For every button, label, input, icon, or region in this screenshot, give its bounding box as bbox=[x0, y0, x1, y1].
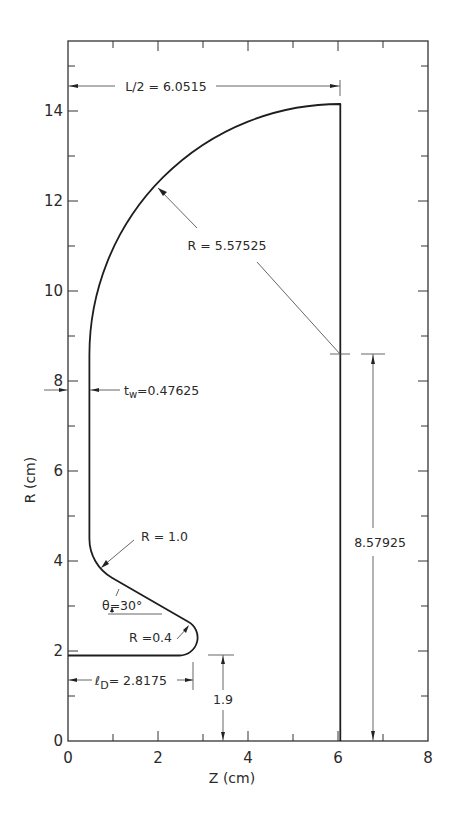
cavity-profile-curve bbox=[68, 104, 340, 741]
arc-radius-dimension: R = 5.57525 bbox=[158, 188, 350, 354]
fillet-radius-label: R = 1.0 bbox=[141, 529, 188, 544]
y-tick-label: 10 bbox=[44, 282, 63, 300]
duct-radius-label: 1.9 bbox=[213, 692, 233, 707]
wall-thickness-dimension: tw=0.47625 bbox=[44, 383, 199, 400]
x-tick-labels: 0 2 4 6 8 bbox=[63, 749, 433, 767]
angle-label: θ=30° bbox=[102, 598, 142, 613]
y-tick-label: 12 bbox=[44, 192, 63, 210]
y-tick-label: 0 bbox=[53, 732, 63, 750]
duct-radius-dimension: 1.9 bbox=[208, 655, 234, 741]
plot-frame bbox=[68, 41, 428, 741]
x-tick-label: 0 bbox=[63, 749, 73, 767]
y-tick-label: 6 bbox=[53, 462, 63, 480]
y-tick-label: 4 bbox=[53, 552, 63, 570]
y-tick-label: 2 bbox=[53, 642, 63, 660]
y-tick-labels: 0 2 4 6 8 10 12 14 bbox=[44, 102, 63, 750]
duct-length-dimension: ℓD= 2.8175 bbox=[68, 662, 193, 692]
y-tick-label: 8 bbox=[53, 372, 63, 390]
x-tick-label: 4 bbox=[243, 749, 253, 767]
x-tick-label: 6 bbox=[333, 749, 343, 767]
y-tick-label: 14 bbox=[44, 102, 63, 120]
cavity-profile-diagram: 0 2 4 6 8 0 2 4 6 8 10 12 14 Z (cm) R (c… bbox=[0, 0, 452, 825]
fillet-radius-dimension: R = 1.0 bbox=[101, 529, 188, 568]
center-height-label: 8.57925 bbox=[354, 535, 406, 550]
half-length-dimension: L/2 = 6.0515 bbox=[68, 79, 340, 96]
duct-length-label: ℓD= 2.8175 bbox=[94, 673, 167, 692]
x-tick-label: 8 bbox=[423, 749, 433, 767]
wall-thickness-label: tw=0.47625 bbox=[124, 383, 199, 400]
arc-radius-label: R = 5.57525 bbox=[188, 238, 267, 253]
half-length-label: L/2 = 6.0515 bbox=[125, 79, 206, 94]
x-axis-label: Z (cm) bbox=[209, 770, 255, 786]
y-axis-label: R (cm) bbox=[22, 457, 38, 503]
nose-radius-label: R =0.4 bbox=[129, 630, 172, 645]
nose-radius-dimension: R =0.4 bbox=[129, 625, 189, 645]
x-tick-label: 2 bbox=[153, 749, 163, 767]
center-height-dimension: 8.57925 bbox=[354, 354, 406, 741]
